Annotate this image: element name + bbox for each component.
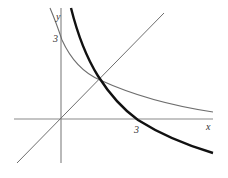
graph-canvas: y 3 3 x — [0, 0, 228, 178]
thick-curve — [71, 8, 213, 153]
chart-svg: y 3 3 x — [0, 0, 228, 178]
y-axis-label: y — [55, 11, 61, 22]
y-tick-label: 3 — [52, 33, 58, 44]
identity-line — [17, 13, 164, 163]
x-tick-label: 3 — [133, 124, 139, 135]
x-axis-label: x — [205, 121, 211, 132]
